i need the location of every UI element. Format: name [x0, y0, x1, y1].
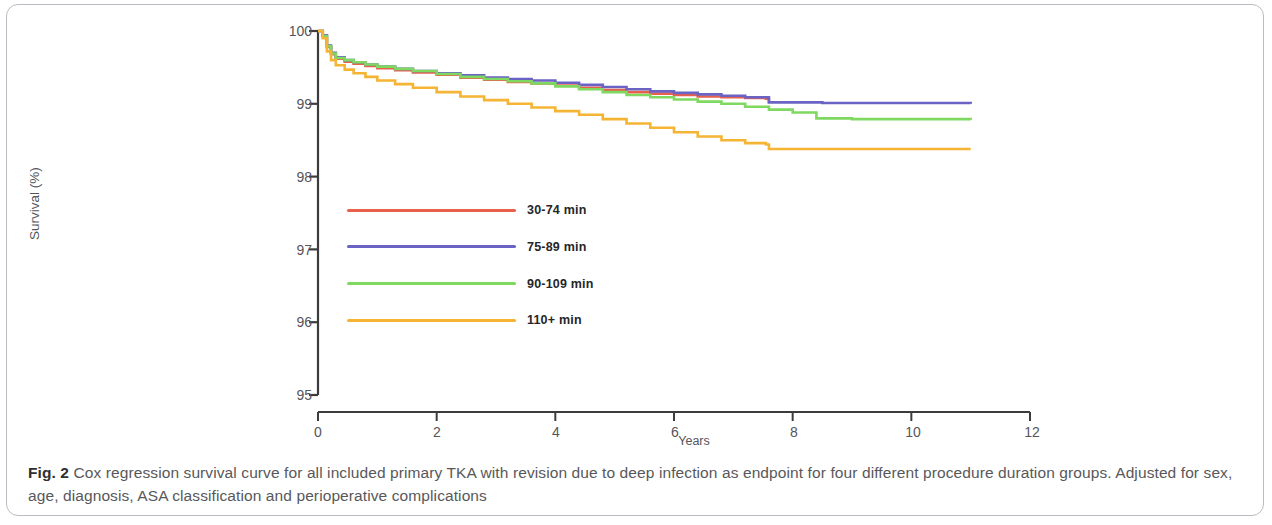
curve-90-109-min: [318, 31, 971, 120]
figure-caption-text: Cox regression survival curve for all in…: [28, 464, 1232, 504]
ytick-label-98: 98: [272, 169, 312, 185]
ytick-label-100: 100: [272, 23, 312, 39]
figure-container: 100 99 98 97 96 95 0 2 4 6 8 10 12 Survi…: [0, 0, 1272, 525]
ytick-label-96: 96: [272, 314, 312, 330]
legend-label-90-109: 90-109 min: [527, 277, 594, 291]
xtick-label-2: 2: [417, 424, 457, 440]
legend-swatch-110plus: [347, 319, 516, 322]
ytick-label-95: 95: [272, 387, 312, 403]
xtick-label-0: 0: [298, 424, 338, 440]
legend-label-110plus: 110+ min: [527, 313, 582, 327]
legend-swatch-90-109: [347, 282, 516, 285]
chart-svg: [0, 0, 1272, 455]
x-axis-label: Years: [654, 434, 734, 448]
xtick-label-10: 10: [893, 424, 933, 440]
legend-label-75-89: 75-89 min: [527, 240, 586, 254]
ytick-label-97: 97: [272, 242, 312, 258]
legend-swatch-75-89: [347, 245, 516, 248]
figure-caption: Fig. 2 Cox regression survival curve for…: [28, 462, 1244, 507]
ytick-label-99: 99: [272, 96, 312, 112]
chart-curves: [318, 31, 971, 149]
survival-chart: 100 99 98 97 96 95 0 2 4 6 8 10 12 Survi…: [0, 0, 1272, 455]
xtick-label-12: 12: [1012, 424, 1052, 440]
y-axis-label: Survival (%): [27, 144, 42, 264]
figure-number: Fig. 2: [28, 464, 69, 481]
xtick-label-8: 8: [774, 424, 814, 440]
chart-axes: [309, 31, 1030, 421]
legend-swatch-30-74: [347, 209, 516, 212]
xtick-label-4: 4: [536, 424, 576, 440]
legend-label-30-74: 30-74 min: [527, 203, 586, 217]
